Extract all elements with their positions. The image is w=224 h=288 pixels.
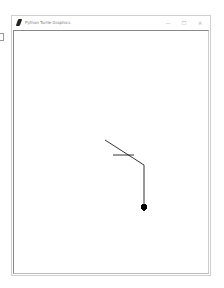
- drawing-layer: [0, 0, 224, 288]
- pen-segment: [105, 140, 144, 165]
- pen-lines: [105, 140, 144, 205]
- turtle-icon: [141, 204, 147, 211]
